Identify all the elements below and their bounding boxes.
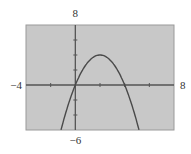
- ymax-label: 8: [73, 7, 79, 19]
- xmin-label: −4: [10, 79, 22, 91]
- xmax-label: 8: [180, 79, 186, 91]
- graph-window: 8 −6 −4 8: [0, 0, 191, 154]
- ymin-label: −6: [69, 134, 81, 146]
- plot-background: [26, 25, 174, 130]
